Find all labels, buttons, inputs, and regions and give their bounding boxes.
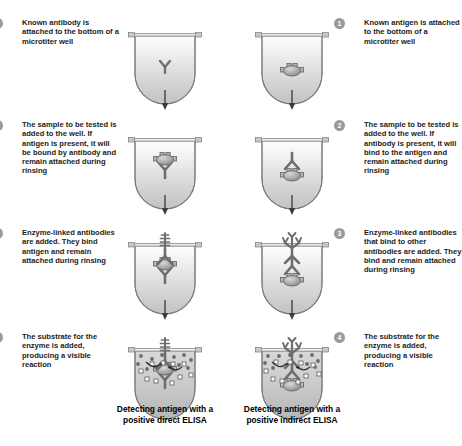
step-badge-indirect-2: 2 — [334, 120, 345, 131]
step-text-direct-3: 3 Enzyme-linked antibodies are added. Th… — [6, 228, 120, 265]
step-text-indirect-4: 4 The substrate for the enzyme is added,… — [348, 332, 462, 369]
step-body-direct-2: The sample to be tested is added to the … — [22, 120, 120, 176]
step-text-indirect-1: 1 Known antigen is attached to the botto… — [348, 18, 462, 46]
indirect-elisa-illustrations — [256, 33, 329, 420]
step-text-direct-1: 1 Known antibody is attached to the bott… — [6, 18, 120, 46]
step-text-direct-2: 2 The sample to be tested is added to th… — [6, 120, 120, 176]
step-text-indirect-3: 3 Enzyme-linked antibodies that bind to … — [348, 228, 462, 274]
step-body-direct-3: Enzyme-linked antibodies are added. They… — [22, 228, 120, 265]
caption-indirect-elisa: Detecting antigen with a positive indire… — [212, 404, 372, 425]
step-body-indirect-4: The substrate for the enzyme is added, p… — [364, 332, 462, 369]
caption-direct-line1: Detecting antigen with a — [117, 404, 213, 414]
step-body-direct-1: Known antibody is attached to the bottom… — [22, 18, 120, 46]
step-body-indirect-2: The sample to be tested is added to the … — [364, 120, 462, 176]
caption-indirect-line1: Detecting antigen with a — [244, 404, 340, 414]
caption-indirect-line2: positive indirect ELISA — [246, 415, 337, 425]
step-body-direct-4: The substrate for the enzyme is added, p… — [22, 332, 120, 369]
step-text-indirect-2: 2 The sample to be tested is added to th… — [348, 120, 462, 176]
step-body-indirect-3: Enzyme-linked antibodies that bind to ot… — [364, 228, 462, 274]
step-badge-indirect-4: 4 — [334, 332, 345, 343]
step-body-indirect-1: Known antigen is attached to the bottom … — [364, 18, 462, 46]
step-text-direct-4: 4 The substrate for the enzyme is added,… — [6, 332, 120, 369]
direct-elisa-illustrations — [129, 33, 202, 420]
step-badge-indirect-3: 3 — [334, 228, 345, 239]
caption-direct-line2: positive direct ELISA — [123, 415, 207, 425]
step-badge-indirect-1: 1 — [334, 18, 345, 29]
